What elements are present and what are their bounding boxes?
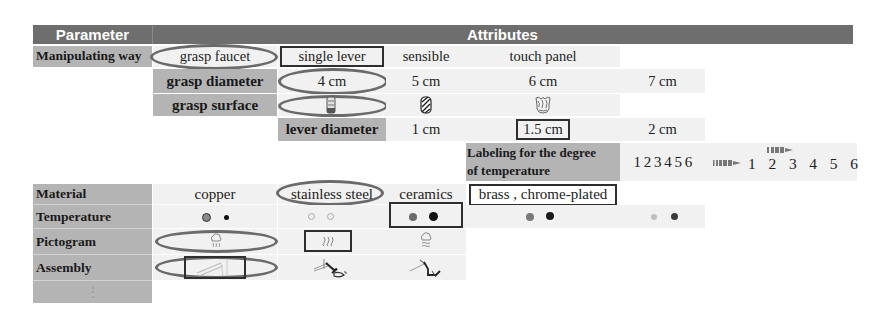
light-grey-dot-icon (651, 214, 657, 220)
cell-lever-mixer[interactable] (278, 255, 386, 280)
steam-cloud-icon (210, 233, 222, 249)
cell-brass-chrome[interactable]: brass , chrome-plated (466, 184, 620, 204)
cell-diagonal-grip[interactable] (386, 94, 466, 116)
cell-5cm[interactable]: 5 cm (386, 69, 466, 93)
labeling-digits-spaced: 1 2 3 4 5 6 (748, 155, 858, 173)
option-7cm: 7 cm (648, 73, 677, 89)
cell-ceramics[interactable]: ceramics (386, 184, 466, 204)
cell-temp-option-5[interactable] (620, 205, 705, 228)
option-6cm: 6 cm (529, 73, 558, 89)
smooth-grip-icon (326, 96, 336, 114)
black-dot-icon (224, 215, 229, 220)
row-separator (33, 254, 152, 255)
option-stainless-steel: stainless steel (291, 186, 373, 202)
label-assembly: Assembly (33, 255, 152, 280)
label-pictogram: Pictogram (33, 229, 152, 254)
header-attributes: Attributes (467, 25, 587, 44)
bar-arrow-icon (767, 146, 797, 154)
option-4cm: 4 cm (318, 73, 347, 89)
option-5cm: 5 cm (412, 73, 441, 89)
cell-grasp-faucet[interactable]: grasp faucet (153, 46, 277, 67)
header-bar (33, 25, 853, 44)
cell-wall-spout[interactable] (153, 255, 277, 280)
lever-mixer-icon (312, 257, 352, 279)
header-parameter: Parameter (33, 25, 152, 44)
cell-copper[interactable]: copper (153, 184, 277, 204)
bar-arrow-icon (713, 159, 743, 167)
label-material: Material (33, 184, 152, 204)
hollow-ring-icon (327, 213, 334, 220)
option-sensible: sensible (403, 48, 450, 64)
cell-single-lever[interactable]: single lever (278, 46, 386, 67)
cell-steam-cloud[interactable] (153, 229, 277, 254)
black-dot-icon (546, 212, 554, 220)
digit-5: 5 (830, 155, 838, 173)
label-grasp-surface: grasp surface (153, 94, 277, 116)
option-copper: copper (195, 186, 236, 202)
digit-3: 3 (789, 155, 797, 173)
cloud-waves-icon (420, 232, 432, 250)
header-divider (152, 25, 153, 44)
cell-heat-waves[interactable] (278, 229, 386, 254)
black-dot-icon (429, 212, 438, 221)
digit-1: 1 (748, 155, 756, 173)
option-1cm: 1 cm (412, 121, 441, 137)
cell-1-5cm[interactable]: 1.5 cm (466, 118, 620, 141)
option-brass-chrome: brass , chrome-plated (479, 186, 608, 202)
option-single-lever: single lever (298, 48, 365, 64)
cell-labeling-plain[interactable]: 1 2 3 4 5 6 (620, 143, 705, 181)
option-grasp-faucet: grasp faucet (180, 48, 250, 64)
grey-dot-icon (202, 213, 211, 222)
label-temperature: Temperature (33, 205, 152, 228)
cell-stainless-steel[interactable]: stainless steel (278, 184, 386, 204)
cell-7cm[interactable]: 7 cm (620, 69, 705, 93)
label-labeling-line2: of temperature (467, 162, 620, 180)
cell-2cm[interactable]: 2 cm (620, 118, 705, 141)
cell-6cm[interactable]: 6 cm (466, 69, 620, 93)
grey-dot-icon (526, 213, 534, 221)
deck-mounted-faucet-icon (406, 257, 446, 279)
cell-knurled-grip[interactable] (466, 94, 620, 116)
cell-temp-option-1[interactable] (153, 205, 277, 228)
option-2cm: 2 cm (648, 121, 677, 137)
option-1-5cm: 1.5 cm (523, 121, 562, 137)
cell-temp-option-4[interactable] (466, 205, 620, 228)
digit-6: 6 (850, 155, 858, 173)
cell-sensible[interactable]: sensible (386, 46, 466, 67)
cell-touch-panel[interactable]: touch panel (466, 46, 620, 67)
cell-cloud-waves[interactable] (386, 229, 466, 254)
row-separator (33, 280, 152, 281)
cell-4cm[interactable]: 4 cm (278, 69, 386, 93)
cell-temp-option-2[interactable] (278, 205, 386, 228)
cell-temp-option-3[interactable] (386, 205, 466, 228)
cell-smooth-grip[interactable] (278, 94, 386, 116)
cell-1cm[interactable]: 1 cm (386, 118, 466, 141)
label-manipulating-way: Manipulating way (33, 46, 152, 67)
diagonal-ribbed-grip-icon (420, 96, 432, 114)
cell-deck-mounted[interactable] (386, 255, 466, 280)
cell-labeling-arrow[interactable]: 1 2 3 4 5 6 (705, 143, 857, 181)
label-grasp-diameter: grasp diameter (153, 69, 277, 93)
label-labeling-line1: Labeling for the degree (467, 144, 620, 162)
option-labeling-plain: 1 2 3 4 5 6 (633, 154, 691, 170)
dark-grey-dot-icon (409, 213, 417, 221)
selection-box (389, 202, 463, 228)
label-labeling-temperature: Labeling for the degree of temperature (466, 143, 620, 181)
digit-4: 4 (809, 155, 817, 173)
option-touch-panel: touch panel (509, 48, 576, 64)
knurled-grip-icon (533, 95, 553, 115)
label-lever-diameter: lever diameter (278, 118, 386, 141)
label-more: ⋮ (33, 281, 152, 303)
heat-waves-icon (322, 235, 334, 247)
row-separator (33, 204, 152, 205)
hollow-ring-icon (308, 213, 315, 220)
digit-2: 2 (768, 155, 776, 173)
row-separator (33, 228, 152, 229)
dark-dot-icon (671, 213, 678, 220)
wall-spout-icon (193, 259, 237, 277)
option-ceramics: ceramics (399, 186, 452, 202)
